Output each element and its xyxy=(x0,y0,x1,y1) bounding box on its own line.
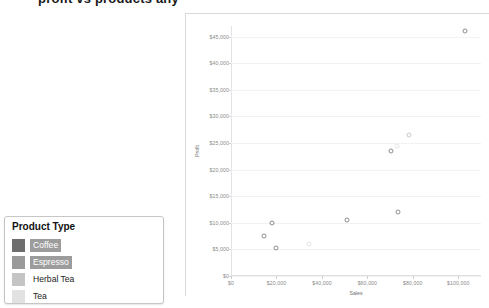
y-tick-mark xyxy=(228,63,231,64)
legend-swatch-icon xyxy=(12,256,25,269)
scatter-point[interactable] xyxy=(261,234,266,239)
gridline-horizontal xyxy=(231,90,481,91)
x-tick-label: $100,000 xyxy=(447,280,469,286)
x-tick-mark xyxy=(231,276,232,279)
y-axis-title: Profit xyxy=(194,145,200,157)
scatter-point[interactable] xyxy=(463,29,468,34)
y-tick-mark xyxy=(228,249,231,250)
legend-item-herbal-tea[interactable]: Herbal Tea xyxy=(12,271,157,287)
y-tick-mark xyxy=(228,37,231,38)
scatter-point[interactable] xyxy=(274,246,279,251)
x-tick-label: $80,000 xyxy=(403,280,422,286)
scatter-point[interactable] xyxy=(394,143,399,148)
legend-item-tea[interactable]: Tea xyxy=(12,288,157,304)
legend-title: Product Type xyxy=(12,221,75,232)
legend-item-label: Espresso xyxy=(30,256,72,269)
x-tick-label: $60,000 xyxy=(358,280,377,286)
y-tick-label: $40,000 xyxy=(210,60,229,66)
y-tick-label: $30,000 xyxy=(210,113,229,119)
gridline-horizontal xyxy=(231,196,481,197)
legend-list: CoffeeEspressoHerbal TeaTea xyxy=(12,237,157,305)
x-tick-mark xyxy=(322,276,323,279)
y-tick-label: $45,000 xyxy=(210,34,229,40)
scatter-plot-area[interactable] xyxy=(231,26,481,276)
legend-card[interactable]: Product Type CoffeeEspressoHerbal TeaTea xyxy=(4,216,164,304)
scatter-point[interactable] xyxy=(269,220,274,225)
legend-swatch-icon xyxy=(12,273,25,286)
y-tick-mark xyxy=(228,143,231,144)
y-tick-mark xyxy=(228,196,231,197)
gridline-horizontal xyxy=(231,37,481,38)
legend-swatch-icon xyxy=(12,290,25,303)
legend-item-label: Tea xyxy=(30,290,50,303)
gridline-horizontal xyxy=(231,143,481,144)
y-tick-label: $25,000 xyxy=(210,140,229,146)
x-tick-label: $0 xyxy=(228,280,234,286)
y-tick-mark xyxy=(228,116,231,117)
legend-item-espresso[interactable]: Espresso xyxy=(12,254,157,270)
legend-item-label: Herbal Tea xyxy=(30,273,77,286)
plot-frame: $0$5,000$10,000$15,000$20,000$25,000$30,… xyxy=(231,26,481,276)
page-title: profit vs products any xyxy=(38,0,179,6)
legend-item-label: Coffee xyxy=(30,239,61,252)
x-axis-title: Sales xyxy=(350,290,363,296)
gridline-horizontal xyxy=(231,170,481,171)
scatter-point[interactable] xyxy=(389,149,394,154)
scatter-point[interactable] xyxy=(344,218,349,223)
x-tick-mark xyxy=(413,276,414,279)
y-tick-mark xyxy=(228,223,231,224)
scatter-point[interactable] xyxy=(396,210,401,215)
legend-swatch-icon xyxy=(12,239,25,252)
y-tick-mark xyxy=(228,170,231,171)
y-tick-label: $5,000 xyxy=(213,246,229,252)
chart-panel: $0$5,000$10,000$15,000$20,000$25,000$30,… xyxy=(185,13,489,296)
y-tick-label: $20,000 xyxy=(210,167,229,173)
y-tick-label: $10,000 xyxy=(210,220,229,226)
scatter-point[interactable] xyxy=(407,133,412,138)
y-tick-mark xyxy=(228,90,231,91)
gridline-horizontal xyxy=(231,249,481,250)
x-tick-label: $20,000 xyxy=(267,280,286,286)
x-tick-mark xyxy=(367,276,368,279)
y-tick-label: $15,000 xyxy=(210,193,229,199)
x-tick-label: $40,000 xyxy=(312,280,331,286)
gridline-horizontal xyxy=(231,116,481,117)
x-tick-mark xyxy=(458,276,459,279)
legend-item-coffee[interactable]: Coffee xyxy=(12,237,157,253)
gridline-horizontal xyxy=(231,63,481,64)
scatter-point[interactable] xyxy=(307,242,312,247)
y-tick-label: $35,000 xyxy=(210,87,229,93)
gridline-horizontal xyxy=(231,276,481,277)
x-tick-mark xyxy=(276,276,277,279)
